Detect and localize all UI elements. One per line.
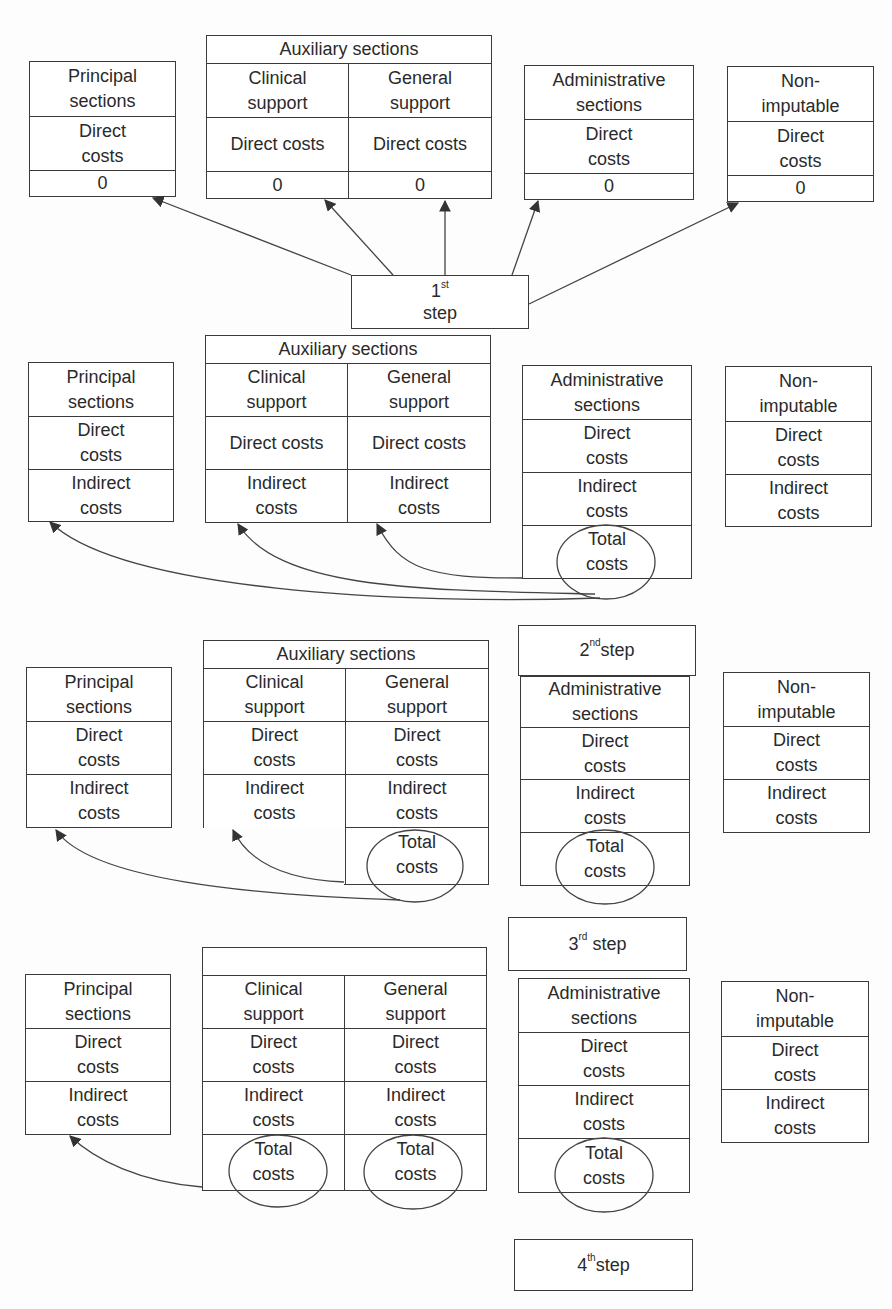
arrow-step2-general [377, 524, 522, 578]
arrow-step4-principal [70, 1136, 202, 1187]
arrow-step2-principal [50, 522, 600, 600]
row4-nonimputable-box: Non-imputable Direct costs Indirect cost… [721, 981, 869, 1143]
row2-auxiliary-box: Auxiliary sections Clinical support Gene… [205, 335, 491, 523]
row1-auxiliary-box: Auxiliary sections Clinical support Gene… [206, 35, 492, 199]
auxiliary-title-empty [203, 948, 486, 975]
value-cell: 0 [525, 173, 693, 199]
direct-costs-cell: Direct costs [525, 119, 693, 173]
row1-nonimputable-box: Non-imputable Direct costs 0 [727, 66, 874, 202]
clinical-direct: Direct costs [207, 118, 348, 171]
step-2-box: 2ndstep [518, 625, 696, 676]
row1-principal-box: Principal sections Direct costs 0 [29, 61, 176, 197]
arrow-step1-nonimputable [529, 203, 738, 304]
row2-administrative-box: Administrative sections Direct costs Ind… [522, 365, 692, 579]
step-1-box: 1st step [351, 275, 529, 329]
clinical-value: 0 [207, 172, 348, 198]
row4-auxiliary-box: Clinical support General support Direct … [202, 947, 487, 1191]
row1-administrative-box: Administrative sections Direct costs 0 [524, 65, 694, 200]
clinical-title: Clinical support [207, 64, 348, 117]
row3-nonimputable-box: Non-imputable Direct costs Indirect cost… [723, 672, 870, 833]
row4-administrative-box: Administrative sections Direct costs Ind… [518, 978, 690, 1193]
row2-principal-box: Principal sections Direct costs Indirect… [28, 362, 174, 522]
direct-costs-cell: Direct costs [728, 121, 873, 175]
direct-costs-cell: Direct costs [30, 116, 175, 170]
step-4-box: 4thstep [514, 1239, 693, 1291]
value-cell: 0 [728, 175, 873, 201]
value-cell: 0 [30, 170, 175, 196]
row3-administrative-box: Administrative sections Direct costs Ind… [520, 676, 690, 886]
general-value: 0 [349, 172, 491, 198]
auxiliary-title: Auxiliary sections [207, 36, 491, 63]
row4-principal-box: Principal sections Direct costs Indirect… [25, 974, 171, 1135]
general-direct: Direct costs [349, 118, 491, 171]
row3-principal-box: Principal sections Direct costs Indirect… [26, 667, 172, 828]
general-title: General support [349, 64, 491, 117]
row2-nonimputable-box: Non-imputable Direct costs Indirect cost… [725, 366, 872, 527]
nonimputable-title: Non-imputable [728, 67, 873, 121]
principal-title: Principal sections [30, 62, 175, 116]
administrative-title: Administrative sections [525, 66, 693, 119]
step-3-box: 3rd step [508, 917, 687, 971]
arrow-step1-administrative [512, 201, 538, 275]
